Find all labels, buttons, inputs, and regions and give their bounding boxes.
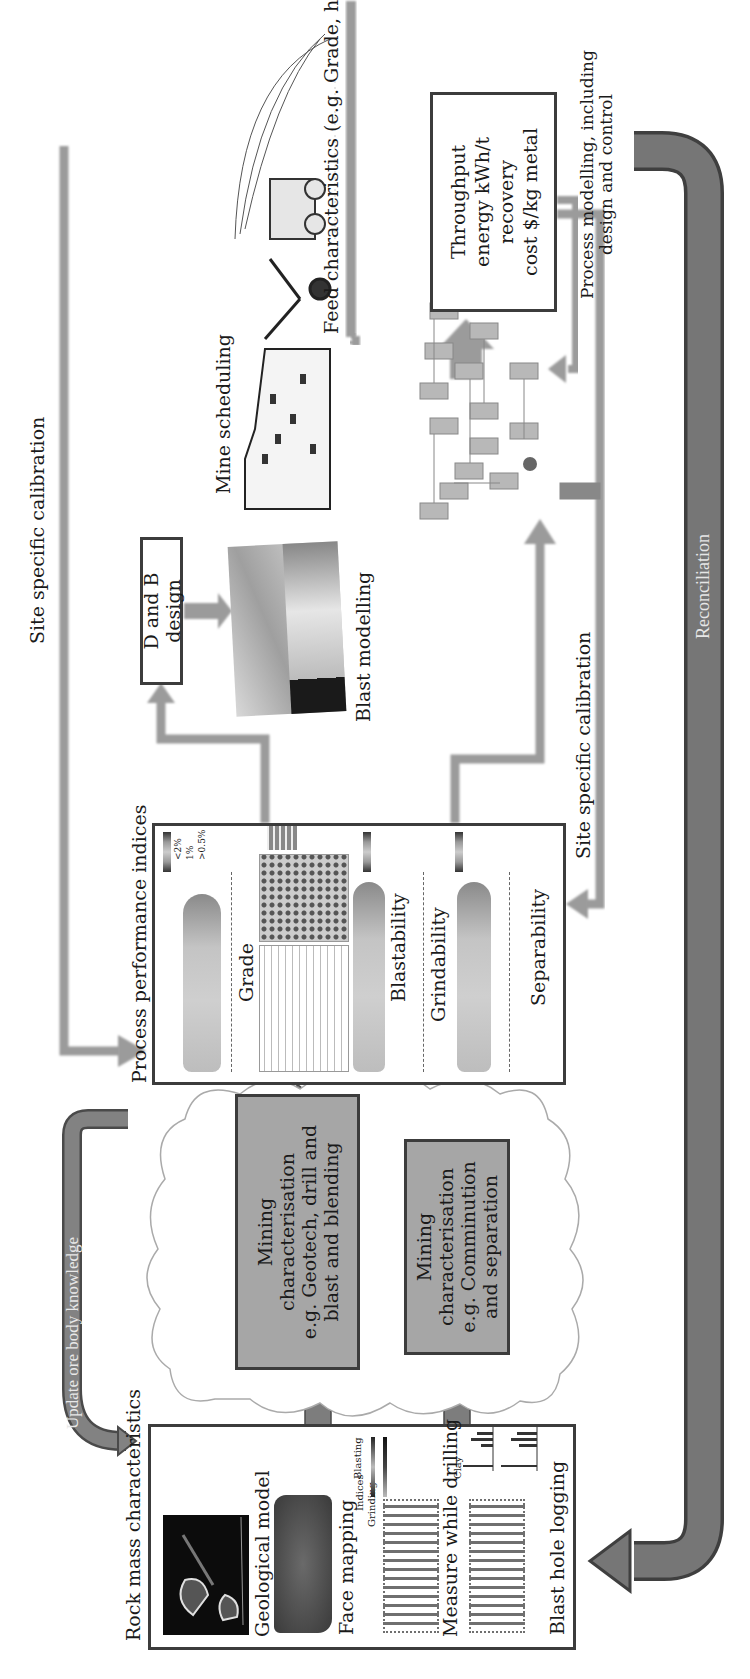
throughput-line-3: recovery	[494, 128, 518, 276]
throughput-box: Throughput energy kWh/t recovery cost $/…	[430, 92, 557, 312]
process-flowsheet-image	[0, 0, 750, 1679]
diagram-canvas: Site specific calibration Update ore bod…	[0, 0, 750, 1679]
throughput-line-2: energy kWh/t	[470, 128, 494, 276]
throughput-line-4: cost $/kg metal	[518, 128, 542, 276]
process-modelling-label: Process modelling, including design and …	[578, 50, 616, 299]
throughput-line-1: Throughput	[446, 128, 470, 276]
process-modelling-line-1: Process modelling, including	[578, 50, 597, 299]
process-modelling-line-2: design and control	[597, 50, 616, 299]
